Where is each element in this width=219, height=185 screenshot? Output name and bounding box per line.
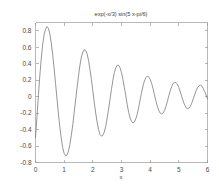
chart-title: exp(-x/3) sin(5 x-pi/6) [95,11,148,17]
y-tick-label: -0.2 [20,109,32,116]
x-tick-labels: 0123456 [34,166,210,173]
y-tick-label: -0.6 [20,142,32,149]
plot-box-border [36,23,208,163]
x-tick-label: 6 [206,166,210,173]
figure-container: exp(-x/3) sin(5 x-pi/6) 0123456 0.80.60.… [0,0,219,185]
x-tick-label: 2 [91,166,95,173]
y-tick-label: -0.8 [20,159,32,166]
y-tick-labels: 0.80.60.40.20-0.2-0.4-0.6-0.8 [20,27,32,166]
y-tick-label: 0.6 [22,44,31,51]
axis-frame [36,23,208,163]
x-axis-label: x [120,174,123,180]
y-tick-label: -0.4 [20,126,32,133]
data-curve-exp-damped-sine [36,27,208,156]
x-axis-ticks [36,23,208,163]
x-tick-label: 0 [34,166,38,173]
y-tick-label: 0.2 [22,76,31,83]
x-tick-label: 3 [120,166,124,173]
plot-canvas: exp(-x/3) sin(5 x-pi/6) 0123456 0.80.60.… [0,0,219,185]
y-tick-label: 0 [28,93,32,100]
y-tick-label: 0.4 [22,60,31,67]
x-tick-label: 1 [62,166,66,173]
y-tick-label: 0.8 [22,27,31,34]
x-tick-label: 5 [177,166,181,173]
x-tick-label: 4 [148,166,152,173]
